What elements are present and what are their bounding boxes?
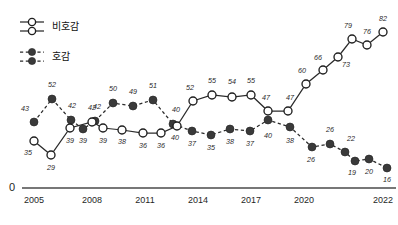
favorable-series-point[interactable] [48,95,56,103]
favorable-series-point[interactable] [129,102,137,110]
unfavorable-series-point[interactable] [139,129,147,137]
unfavorable-point-label: 55 [247,76,256,85]
unfavorable-point-label: 60 [298,66,306,75]
legend-label-favorable: 호감 [52,51,70,62]
unfavorable-series-point[interactable] [319,66,327,74]
unfavorable-series-point[interactable] [334,53,342,61]
legend-marker-filled-circle [28,48,35,55]
unfavorable-series-point[interactable] [99,124,107,132]
unfavorable-series-point[interactable] [157,129,165,137]
x-axis-tick-2017: 2017 [241,195,261,205]
favorable-series-point[interactable] [264,116,272,124]
unfavorable-point-label: 36 [157,141,165,150]
legend-marker-open-circle [28,18,35,25]
legend-marker-filled-circle-2 [28,57,35,64]
unfavorable-point-label: 42 [88,103,96,112]
favorable-series-point[interactable] [188,127,196,135]
y-axis-zero-label: 0 [9,181,15,193]
favorable-point-label: 51 [149,81,157,90]
unfavorable-point-label: 39 [66,136,74,145]
favorable-series-point[interactable] [246,127,254,135]
legend-item-unfavorable[interactable]: 비호감 [20,18,79,34]
favorable-point-label: 43 [21,104,29,113]
unfavorable-series-point[interactable] [208,91,216,99]
favorable-point-label: 39 [79,136,87,145]
x-axis-tick-labels: 2005200820112014201720202022 [24,195,393,205]
unfavorable-point-label: 35 [24,148,33,157]
x-axis-tick-2020: 2020 [294,195,314,205]
favorable-point-label: 22 [346,134,355,143]
favorable-series-point[interactable] [207,131,215,139]
unfavorable-point-label: 39 [99,136,107,145]
favorable-point-label: 38 [286,136,294,145]
favorable-point-label: 38 [226,137,234,146]
favorable-series-point[interactable] [149,96,157,104]
chart-container: 비호감 호감 435242394250495140373538374038262… [0,0,398,225]
favorable-series-point[interactable] [286,123,294,131]
unfavorable-point-label: 40 [171,133,179,142]
favorable-point-label: 50 [109,84,117,93]
unfavorable-series-point[interactable] [348,35,356,43]
unfavorable-series-point[interactable] [363,41,371,49]
unfavorable-series-point[interactable] [30,137,38,145]
favorable-point-label: 52 [48,80,56,89]
unfavorable-point-label: 47 [262,93,271,102]
favorable-series-point[interactable] [383,164,391,172]
favorable-point-label: 42 [68,101,76,110]
x-axis-tick-2014: 2014 [188,195,208,205]
unfavorable-series-point[interactable] [173,122,181,130]
unfavorable-point-label: 82 [379,14,387,23]
unfavorable-series-point[interactable] [264,107,272,115]
unfavorable-point-label: 66 [314,53,322,62]
unfavorable-point-label: 55 [208,76,217,85]
favorable-point-label: 20 [364,167,373,176]
unfavorable-series-point[interactable] [379,28,387,36]
favorable-series-point[interactable] [326,140,334,148]
series-layer: 4352423942504951403735383740382626221920… [21,14,391,184]
x-axis-tick-2005: 2005 [24,195,44,205]
x-axis-tick-2008: 2008 [82,195,102,205]
favorable-point-label: 35 [207,143,216,152]
favorable-series-point[interactable] [308,143,316,151]
favorable-series-point[interactable] [351,157,359,165]
favorable-series-point[interactable] [67,116,75,124]
x-axis-tick-2011: 2011 [135,195,154,205]
unfavorable-point-label: 36 [139,141,147,150]
unfavorable-point-label: 73 [342,60,350,69]
favorable-point-label: 37 [246,139,255,148]
favorable-series-point[interactable] [341,148,349,156]
favorable-point-label: 26 [325,125,334,134]
favorable-point-label: 26 [306,155,315,164]
chart-legend: 비호감 호감 [20,18,79,64]
unfavorable-series-point[interactable] [247,91,255,99]
unfavorable-series-point[interactable] [302,80,310,88]
unfavorable-point-label: 76 [363,27,371,36]
unfavorable-point-label: 47 [286,93,295,102]
unfavorable-series-point[interactable] [88,118,96,126]
unfavorable-series-point[interactable] [189,97,197,105]
unfavorable-point-label: 29 [46,163,55,172]
unfavorable-series-point[interactable] [66,124,74,132]
favorable-series-point[interactable] [365,155,373,163]
unfavorable-point-label: 38 [118,137,126,146]
favorable-point-label: 19 [348,168,356,177]
unfavorable-series-point[interactable] [228,93,236,101]
legend-marker-open-circle-2 [28,27,35,34]
favorable-series-point[interactable] [79,125,87,133]
favorable-series-point[interactable] [109,99,117,107]
favorable-series-point[interactable] [30,118,38,126]
favorable-point-label: 40 [264,131,272,140]
favorable-point-label: 49 [129,87,137,96]
unfavorable-point-label: 52 [186,83,194,92]
unfavorable-series-point[interactable] [284,107,292,115]
favorable-series-point[interactable] [226,125,234,133]
unfavorable-series-point[interactable] [47,151,55,159]
favorable-point-label: 40 [172,105,180,114]
favorable-point-label: 37 [188,139,197,148]
legend-item-favorable[interactable]: 호감 [20,48,70,64]
unfavorable-series-point[interactable] [118,126,126,134]
unfavorable-point-label: 54 [228,77,236,86]
x-axis-tick-2022: 2022 [373,195,393,205]
legend-label-unfavorable: 비호감 [52,21,79,32]
favorable-point-label: 16 [383,175,391,184]
